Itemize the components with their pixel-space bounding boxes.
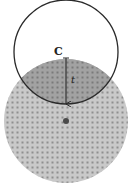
center-label-c: C [54, 45, 63, 58]
diagram: C t [0, 0, 132, 191]
disk-center-dot [63, 118, 69, 124]
